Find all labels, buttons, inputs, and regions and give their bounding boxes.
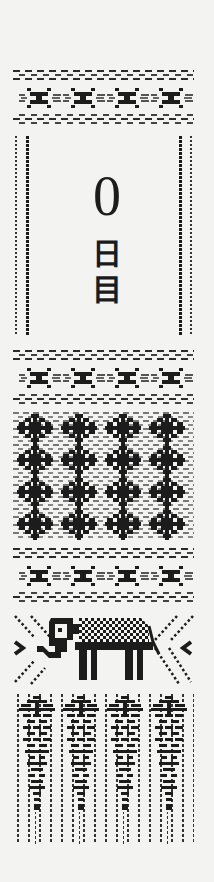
title-char-day: 日 xyxy=(92,236,122,272)
lower-x-band xyxy=(13,548,194,604)
x-motif-band-pattern xyxy=(13,70,194,126)
x-motif-band-pattern xyxy=(13,350,194,406)
elephant-icon xyxy=(37,618,159,680)
x-motif-band-pattern xyxy=(13,548,194,604)
left-chevron-icon xyxy=(15,642,23,654)
tassel-band xyxy=(13,694,194,844)
right-chevron-icon xyxy=(183,642,191,654)
diamond-check-band xyxy=(13,412,194,540)
title-number: 0 xyxy=(0,166,214,226)
title-char-eye: 目 xyxy=(92,272,122,308)
title-suffix: 日 目 xyxy=(92,236,122,312)
tassel-pattern xyxy=(13,694,194,844)
elephant-motif xyxy=(13,612,194,688)
top-x-band xyxy=(13,70,194,126)
elephant-band xyxy=(13,612,194,688)
diamond-check-pattern xyxy=(13,412,194,540)
middle-x-band xyxy=(13,350,194,406)
